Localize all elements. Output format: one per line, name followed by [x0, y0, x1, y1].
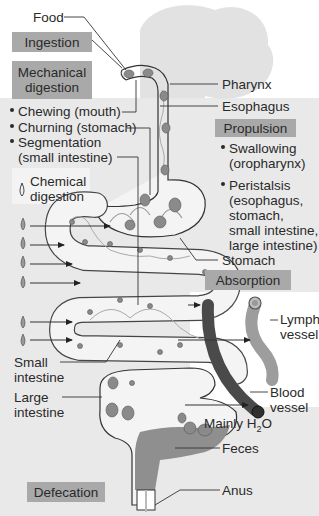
- label-feces: Feces: [222, 441, 259, 456]
- label-blood-vessel: Blood vessel: [270, 385, 308, 415]
- label-stomach: Stomach: [222, 253, 275, 268]
- bullet-icon: [221, 145, 225, 149]
- label-esophagus: Esophagus: [222, 99, 290, 114]
- label-lymph-vessel: Lymph vessel: [280, 312, 319, 342]
- mechanical-item-segmentation: Segmentation: [10, 135, 101, 150]
- box-defecation: Defecation: [27, 482, 105, 502]
- box-mechanical-digestion: Mechanical digestion: [12, 61, 92, 99]
- label-anus: Anus: [222, 483, 253, 498]
- label-chemical-digestion: Chemical digestion: [30, 174, 86, 204]
- label-large-intestine: Large intestine: [14, 390, 64, 420]
- box-propulsion: Propulsion: [215, 119, 296, 137]
- label-pharynx: Pharynx: [222, 77, 272, 92]
- box-ingestion: Ingestion: [12, 32, 92, 52]
- bullet-icon: [10, 108, 14, 112]
- label-small-intestine: Small intestine: [14, 355, 64, 385]
- bullet-icon: [10, 139, 14, 143]
- digestive-process-diagram: Food Ingestion Mechanical digestion Chew…: [0, 0, 319, 516]
- mechanical-item-chewing: Chewing (mouth): [10, 104, 121, 119]
- mechanical-line-2: digestion: [25, 80, 79, 95]
- mechanical-item-segmentation-sub: (small intestine): [18, 150, 113, 165]
- label-mainly-h2o: Mainly H2O: [204, 416, 272, 431]
- mechanical-item-churning: Churning (stomach): [10, 120, 137, 135]
- box-absorption: Absorption: [205, 270, 291, 290]
- bullet-icon: [10, 124, 14, 128]
- label-food: Food: [33, 10, 64, 25]
- mechanical-line-1: Mechanical: [18, 65, 86, 80]
- propulsion-item-peristalsis: Peristalsis (esophagus, stomach, small i…: [221, 178, 318, 253]
- propulsion-item-swallowing: Swallowing (oropharynx): [221, 141, 306, 171]
- bullet-icon: [221, 182, 225, 186]
